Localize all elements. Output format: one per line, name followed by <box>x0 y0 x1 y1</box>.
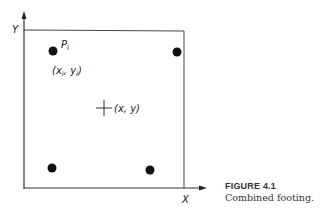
figure-caption: FIGURE 4.1 Combined footing. <box>225 181 314 203</box>
x-axis-arrow-icon <box>199 186 207 191</box>
point-pi-label: Pi <box>61 39 69 52</box>
centroid-label: (x, y) <box>114 103 140 114</box>
y-axis-label: Y <box>12 24 19 35</box>
footing-top-edge <box>24 30 184 31</box>
point-pi-coords: (xi, yi) <box>52 65 82 78</box>
column-point-bottom-left <box>48 164 57 173</box>
column-point-top-right <box>173 48 182 57</box>
figure-caption-text: Combined footing. <box>225 192 314 203</box>
x-axis-label: X <box>181 194 190 205</box>
column-point-bottom-right <box>146 166 155 175</box>
column-point-top-left <box>49 47 58 56</box>
y-axis-arrow-icon <box>22 11 27 19</box>
figure-caption-title: FIGURE 4.1 <box>225 181 314 191</box>
